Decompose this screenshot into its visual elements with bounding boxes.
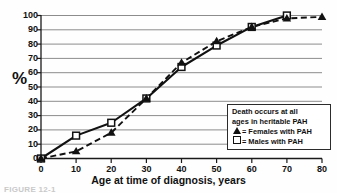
open-square-icon	[232, 136, 241, 147]
x-axis-tick-labels: 0 10 20 30 40 50 60 70 80	[0, 0, 337, 193]
figure-caption: FIGURE 12-1	[4, 185, 56, 193]
x-tick-label: 80	[307, 165, 337, 174]
x-tick-label: 70	[272, 165, 302, 174]
legend-entry-males: = Males with PAH	[232, 136, 327, 147]
legend-title-text-2: ages in heritable PAH	[232, 117, 307, 127]
legend-title-line-1: Death occurs at all	[232, 107, 327, 117]
x-tick-label: 30	[131, 165, 161, 174]
chart-legend: Death occurs at all ages in heritable PA…	[227, 104, 331, 150]
x-tick-label: 0	[26, 165, 56, 174]
filled-triangle-icon	[232, 127, 241, 137]
legend-label-females: = Females with PAH	[242, 127, 312, 137]
x-tick-label: 60	[237, 165, 267, 174]
legend-entry-females: = Females with PAH	[232, 127, 327, 137]
figure-chart: % 100 90 80 70 60 50 40 30 20 10 0 0 10 …	[0, 0, 337, 193]
x-tick-label: 40	[167, 165, 197, 174]
legend-label-males: = Males with PAH	[242, 137, 303, 147]
legend-title-line-2: ages in heritable PAH	[232, 117, 327, 127]
x-tick-label: 10	[61, 165, 91, 174]
x-tick-label: 50	[202, 165, 232, 174]
legend-title-text-1: Death occurs at all	[232, 107, 298, 117]
x-tick-label: 20	[96, 165, 126, 174]
